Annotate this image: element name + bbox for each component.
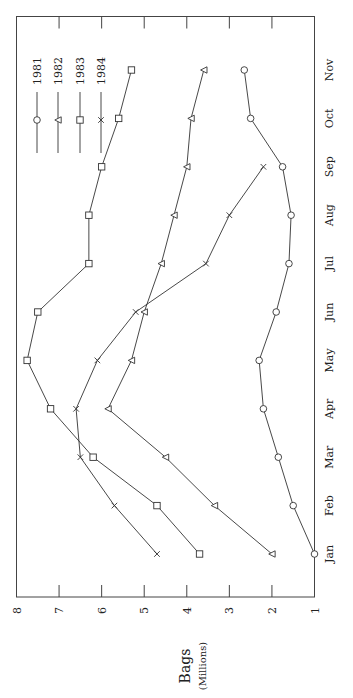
point-1983-aug: [86, 212, 92, 218]
point-1984-sep: [261, 164, 267, 170]
series-group: [24, 67, 318, 558]
month-label-aug: Aug: [323, 204, 336, 227]
series-line-1982: [108, 70, 272, 554]
point-1982-aug: [171, 212, 177, 218]
tick-label-1: 1: [309, 607, 322, 614]
point-1983-oct: [115, 115, 121, 121]
point-1984-may: [95, 358, 101, 364]
tick-label-8: 8: [11, 607, 24, 614]
point-1984-aug: [227, 212, 233, 218]
legend-item-1983: 1983: [74, 57, 87, 153]
point-1982-apr: [105, 406, 111, 412]
month-label-sep: Sep: [323, 156, 336, 177]
point-1981-jan: [311, 551, 318, 558]
point-1981-nov: [241, 67, 248, 74]
point-1981-may: [256, 357, 263, 364]
legend-item-1982: 1982: [52, 57, 65, 153]
point-1983-jul: [86, 260, 92, 266]
point-1983-sep: [98, 164, 104, 170]
month-label-feb: Feb: [323, 495, 336, 516]
point-1983-mar: [90, 454, 96, 460]
value-axis-tick-labels: 87654321: [11, 607, 322, 614]
tick-label-3: 3: [223, 607, 236, 614]
line-chart: 87654321 JanFebMarAprMayJunJulAugSepOctN…: [0, 0, 353, 698]
point-1982-jun: [141, 309, 147, 315]
point-1981-feb: [290, 502, 297, 509]
month-label-apr: Apr: [323, 398, 336, 420]
legend-marker-1981: [34, 117, 41, 124]
series-line-1983: [27, 70, 199, 554]
legend-label-1983: 1983: [74, 57, 87, 85]
month-label-jun: Jun: [323, 303, 336, 323]
point-1983-feb: [154, 502, 160, 508]
point-1983-apr: [47, 406, 53, 412]
category-axis-labels: JanFebMarAprMayJunJulAugSepOctNov: [323, 58, 336, 564]
tick-label-6: 6: [96, 607, 109, 614]
point-1981-apr: [260, 406, 267, 413]
value-axis-title: Bags (Millions): [177, 642, 208, 691]
point-1983-nov: [128, 67, 134, 73]
tick-label-5: 5: [138, 607, 151, 614]
legend-marker-1983: [77, 117, 83, 123]
point-1983-jan: [196, 551, 202, 557]
month-label-mar: Mar: [323, 445, 336, 469]
month-label-nov: Nov: [323, 58, 336, 81]
point-1983-jun: [35, 309, 41, 315]
point-1982-may: [128, 357, 134, 363]
month-label-jul: Jul: [323, 256, 336, 272]
legend-label-1984: 1984: [95, 57, 108, 85]
series-1981: [241, 67, 318, 558]
tick-label-4: 4: [181, 607, 194, 614]
legend: 1981198219831984: [31, 57, 108, 153]
series-line-1984: [76, 167, 263, 554]
tick-label-7: 7: [53, 607, 66, 614]
month-label-may: May: [323, 348, 336, 373]
series-1984: [73, 164, 266, 557]
month-label-oct: Oct: [323, 108, 336, 128]
y-axis-sublabel: (Millions): [197, 642, 208, 691]
legend-item-1984: 1984: [95, 57, 108, 153]
plot-frame: [17, 17, 315, 598]
legend-label-1982: 1982: [52, 57, 65, 85]
legend-label-1981: 1981: [31, 57, 44, 85]
value-axis-ticks: [59, 17, 272, 598]
tick-label-2: 2: [266, 607, 279, 614]
point-1984-feb: [112, 503, 118, 509]
point-1982-jul: [158, 260, 164, 266]
point-1984-jul: [203, 261, 209, 267]
point-1981-jun: [273, 309, 280, 316]
point-1984-jan: [154, 551, 160, 557]
point-1984-jun: [133, 309, 139, 315]
point-1981-aug: [288, 212, 295, 219]
point-1981-jul: [286, 260, 293, 267]
point-1981-mar: [275, 454, 282, 461]
point-1982-nov: [201, 67, 207, 73]
point-1981-sep: [279, 164, 286, 171]
y-axis-label: Bags: [177, 649, 193, 684]
legend-item-1981: 1981: [31, 57, 44, 153]
series-1983: [24, 67, 203, 557]
month-label-jan: Jan: [323, 545, 336, 564]
point-1983-may: [24, 357, 30, 363]
point-1981-oct: [247, 115, 254, 122]
series-1982: [105, 67, 275, 557]
